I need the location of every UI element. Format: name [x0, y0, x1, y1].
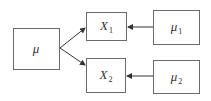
node-x2-label: X2	[100, 67, 113, 84]
node-x1: X1	[86, 12, 127, 41]
node-x2: X2	[86, 58, 126, 93]
node-mu2: μ2	[153, 60, 200, 94]
node-x1-label: X1	[100, 18, 113, 35]
node-mu1-label: μ1	[171, 19, 183, 36]
node-mu1: μ1	[153, 10, 200, 45]
node-mu-label: μ	[33, 41, 41, 58]
node-mu2-label: μ2	[171, 69, 183, 86]
node-mu: μ	[13, 28, 60, 70]
edge-mu-x1	[60, 28, 85, 48]
edge-mu-x2	[60, 48, 85, 65]
